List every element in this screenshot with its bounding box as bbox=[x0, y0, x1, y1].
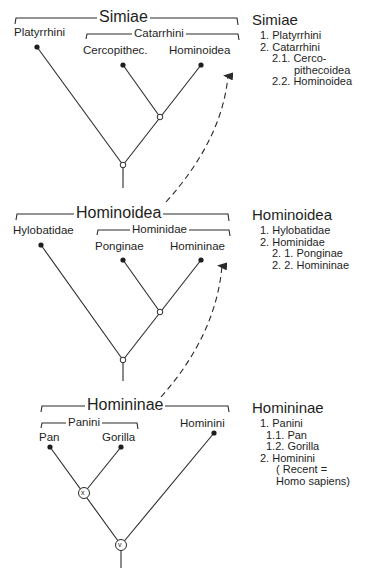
node-hominoidea bbox=[120, 357, 126, 363]
legend-title: Simiae bbox=[252, 12, 352, 27]
terminal-dot-ponginae bbox=[120, 257, 125, 262]
terminal-dot-hominini bbox=[211, 430, 216, 435]
cercopithec-label: Cercopithec. bbox=[83, 45, 148, 57]
node-catarrhini bbox=[157, 114, 163, 120]
hominini-label: Hominini bbox=[180, 418, 225, 430]
legend-item: 2.1. Cerco- bbox=[252, 53, 352, 65]
ponginae-label: Ponginae bbox=[95, 241, 144, 253]
homininae-terminal-label: Homininae bbox=[170, 241, 225, 253]
terminal-dot-gorilla bbox=[118, 444, 123, 449]
homininae-legend: Homininae 1. Panini 1.1. Pan 1.2. Gorill… bbox=[252, 400, 350, 487]
hominidae-bracket-label: Hominidae bbox=[130, 224, 189, 236]
hominoidea-legend: Hominoidea 1. Hylobatidae 2. Hominidae 2… bbox=[252, 207, 349, 271]
hominoidea-bracket-label: Hominoidea bbox=[74, 205, 163, 221]
legend-item: 2. 2. Homininae bbox=[252, 260, 349, 272]
terminal-dot-cercopithec bbox=[120, 62, 125, 67]
catarrhini-bracket-label: Catarrhini bbox=[132, 28, 186, 40]
simiae-legend: Simiae 1. Platyrrhini 2. Catarrhini 2.1.… bbox=[252, 12, 352, 88]
arrow-hominoidea-to-simiae bbox=[166, 76, 228, 202]
terminal-dot-platyrrhini bbox=[34, 44, 39, 49]
node-hominidae bbox=[157, 309, 163, 315]
terminal-dot-homininae bbox=[198, 257, 203, 262]
legend-item: 1.2. Gorilla bbox=[252, 441, 350, 453]
gorilla-label: Gorilla bbox=[102, 432, 135, 444]
legend-item: ( Recent = bbox=[252, 464, 350, 476]
legend-item: 2. 1. Ponginae bbox=[252, 248, 349, 260]
terminal-dot-hylobatidae bbox=[38, 242, 43, 247]
hylobatidae-label: Hylobatidae bbox=[13, 225, 74, 237]
terminal-dot-hominoidea bbox=[198, 62, 203, 67]
homininae-bracket-label: Homininae bbox=[85, 397, 165, 413]
node-v-label: v bbox=[118, 541, 122, 548]
platyrrhini-label: Platyrrhini bbox=[14, 27, 65, 39]
panini-bracket-label: Panini bbox=[66, 417, 102, 429]
hominoidea-terminal-label: Hominoidea bbox=[169, 45, 230, 57]
homininae-tree bbox=[41, 406, 229, 568]
legend-item: 2.2. Hominoidea bbox=[252, 76, 352, 88]
arrow-homininae-to-hominoidea bbox=[161, 266, 222, 397]
node-x-label: x bbox=[81, 489, 85, 496]
legend-item: 1. Hylobatidae bbox=[252, 225, 349, 237]
terminal-dot-pan bbox=[47, 444, 52, 449]
legend-item: Homo sapiens) bbox=[252, 476, 350, 488]
simiae-bracket-label: Simiae bbox=[97, 9, 150, 25]
legend-item: 1. Platyrrhini bbox=[252, 30, 352, 42]
legend-item: 1. Panini bbox=[252, 418, 350, 430]
node-simiae bbox=[120, 162, 126, 168]
pan-label: Pan bbox=[39, 432, 59, 444]
legend-title: Hominoidea bbox=[252, 207, 349, 222]
legend-title: Homininae bbox=[252, 400, 350, 415]
